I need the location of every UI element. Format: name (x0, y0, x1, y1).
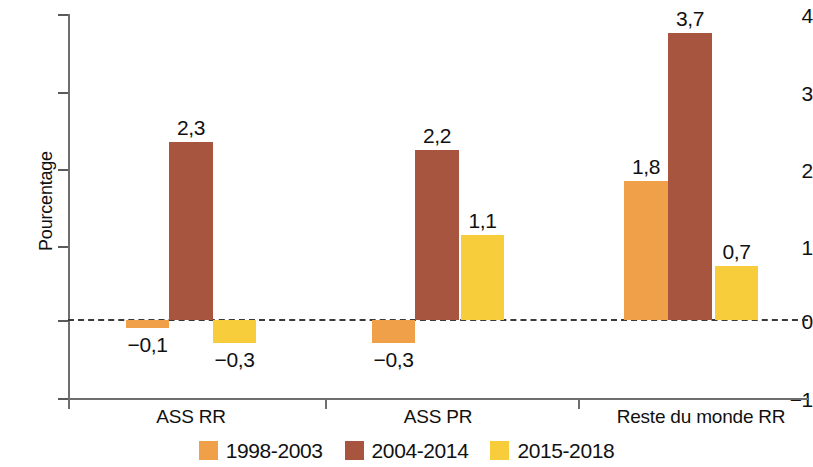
bar-ass-pr-1998-2003 (372, 320, 415, 343)
bar-ass-rr-1998-2003 (126, 320, 169, 328)
legend-swatch-icon-1998-2003 (199, 441, 218, 460)
bar-value-ass-pr-2015-2018: 1,1 (441, 210, 524, 231)
y-tick-label-3: 3 (767, 83, 813, 104)
bar-value-ass-rr-1998-2003: −0,1 (106, 334, 189, 355)
bar-value-ass-pr-1998-2003: −0,3 (352, 349, 435, 370)
legend-label-2004-2014: 2004-2014 (372, 440, 469, 461)
bar-ass-pr-2015-2018 (461, 235, 504, 320)
bar-reste-du-monde-rr-1998-2003 (624, 181, 668, 320)
y-tick-label-0: 0 (767, 311, 813, 332)
bar-value-reste-du-monde-rr-2004-2014: 3,7 (648, 8, 732, 29)
legend-label-2015-2018: 2015-2018 (517, 440, 614, 461)
bar-value-ass-rr-2004-2014: 2,3 (149, 117, 233, 138)
x-axis-category-reste-du-monde-rr: Reste du monde RR (611, 406, 791, 428)
legend-item-2004-2014[interactable]: 2004-2014 (345, 440, 469, 461)
legend-label-1998-2003: 1998-2003 (226, 440, 323, 461)
y-tick-label-2: 2 (767, 160, 813, 181)
y-axis-line (68, 14, 70, 399)
legend-swatch-icon-2004-2014 (345, 441, 364, 460)
y-axis-title: Pourcentage (37, 111, 55, 291)
bar-ass-rr-2004-2014 (169, 142, 213, 320)
bar-ass-rr-2015-2018 (213, 320, 256, 343)
x-axis-separator-start (68, 398, 70, 409)
bar-reste-du-monde-rr-2015-2018 (715, 266, 758, 320)
bar-ass-pr-2004-2014 (415, 150, 459, 320)
x-axis-separator-1 (325, 398, 327, 409)
legend-swatch-icon-2015-2018 (490, 441, 509, 460)
bar-value-ass-pr-2004-2014: 2,2 (395, 125, 479, 146)
x-axis-line (68, 398, 808, 400)
bar-chart: Pourcentage 4 3 2 1 0 −1 −0,1 2,3 −0,3 A… (0, 0, 813, 467)
y-tick-label-4: 4 (767, 5, 813, 26)
bar-value-reste-du-monde-rr-2015-2018: 0,7 (695, 241, 778, 262)
x-axis-category-ass-rr: ASS RR (116, 406, 266, 428)
legend-item-1998-2003[interactable]: 1998-2003 (199, 440, 323, 461)
legend-item-2015-2018[interactable]: 2015-2018 (490, 440, 614, 461)
x-axis-category-ass-pr: ASS PR (363, 406, 513, 428)
legend: 1998-2003 2004-2014 2015-2018 (0, 440, 813, 461)
bar-reste-du-monde-rr-2004-2014 (668, 33, 712, 320)
bar-value-ass-rr-2015-2018: −0,3 (193, 349, 276, 370)
x-axis-separator-2 (578, 398, 580, 409)
